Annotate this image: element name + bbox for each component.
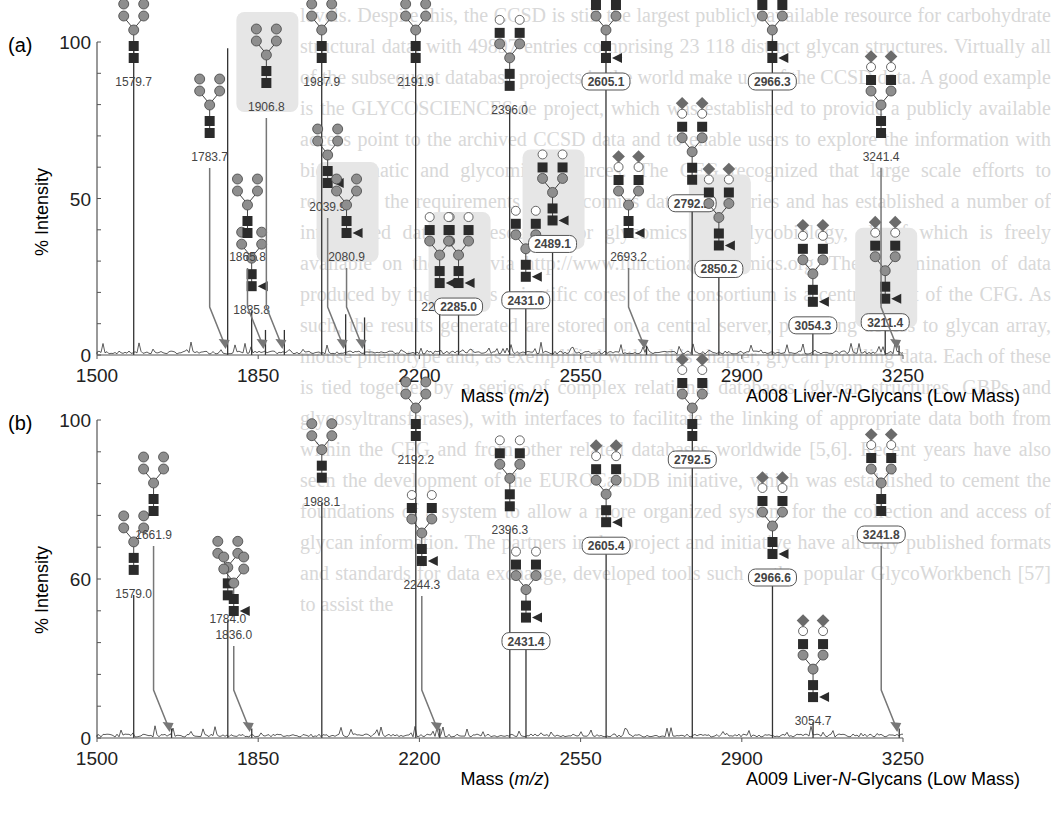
- mannose-circle-icon: [511, 571, 521, 581]
- mannose-circle-icon: [611, 11, 621, 21]
- mannose-circle-icon: [444, 236, 454, 246]
- highlight-box: [689, 174, 751, 274]
- mannose-circle-icon: [232, 174, 242, 184]
- mannose-circle-icon: [757, 507, 767, 517]
- x-tick-label: 1500: [76, 748, 118, 769]
- glcnac-square-icon: [317, 461, 327, 471]
- glcnac-square-icon: [323, 166, 333, 176]
- galactose-circle-icon: [592, 452, 601, 461]
- mannose-circle-icon: [411, 403, 421, 413]
- x-tick-label: 1500: [76, 365, 118, 386]
- galactose-circle-icon: [558, 150, 567, 159]
- glcnac-square-icon: [767, 549, 777, 559]
- glcnac-square-icon: [229, 594, 239, 604]
- x-tick-label: 2550: [559, 365, 601, 386]
- x-tick-label: 3250: [882, 748, 924, 769]
- peak: 3054.3: [789, 219, 837, 355]
- glcnac-square-icon: [229, 606, 239, 616]
- peak: 1579.0: [115, 511, 152, 738]
- mannose-circle-icon: [139, 464, 149, 474]
- mannose-circle-icon: [591, 11, 601, 21]
- galactose-circle-icon: [612, 452, 621, 461]
- peak-mass-label: 2489.1: [534, 237, 571, 251]
- glcnac-square-icon: [591, 464, 601, 474]
- mannose-circle-icon: [159, 464, 169, 474]
- glcnac-square-icon: [601, 41, 611, 51]
- mannose-circle-icon: [808, 269, 818, 279]
- fucose-triangle-icon: [778, 549, 788, 559]
- neuac-diamond-icon: [696, 97, 709, 110]
- glcnac-square-icon: [591, 0, 601, 10]
- panel-a-y-axis: 050100: [59, 32, 101, 366]
- glycan-structure-icon: [676, 97, 709, 185]
- glcnac-square-icon: [757, 496, 767, 506]
- glcnac-square-icon: [515, 28, 525, 38]
- glycan-structure-icon: [865, 428, 898, 516]
- mannose-circle-icon: [195, 86, 205, 96]
- mannose-circle-icon: [332, 174, 342, 184]
- glcnac-square-icon: [444, 225, 454, 235]
- mannose-circle-icon: [425, 236, 435, 246]
- glcnac-square-icon: [505, 489, 515, 499]
- glycan-structure-icon: [119, 511, 149, 575]
- peak: 2244.3: [403, 491, 441, 739]
- mannose-circle-icon: [777, 507, 787, 517]
- mannose-circle-icon: [870, 252, 880, 262]
- mannose-circle-icon: [307, 0, 317, 9]
- mannose-circle-icon: [239, 564, 249, 574]
- pointer-arrow: [881, 546, 897, 730]
- mannose-circle-icon: [401, 389, 411, 399]
- glcnac-square-icon: [205, 128, 215, 138]
- mannose-circle-icon: [313, 136, 323, 146]
- peak: 3054.7: [795, 614, 832, 738]
- highlight-box: [236, 12, 298, 112]
- glcnac-square-icon: [505, 81, 515, 91]
- panel-b-title: A009 Liver-N-Glycans (Low Mass): [746, 769, 1020, 789]
- panel-a-y-axis-label: % Intensity: [32, 168, 52, 256]
- peak: 2192.2: [397, 377, 434, 738]
- panel-b-y-axis: 060100: [59, 410, 101, 749]
- mannose-circle-icon: [407, 514, 417, 524]
- peak-mass-label: 2396.3: [491, 523, 528, 537]
- glcnac-square-icon: [317, 473, 327, 483]
- glycan-structure-icon: [511, 547, 542, 623]
- mannose-circle-icon: [317, 25, 327, 35]
- mannose-circle-icon: [232, 186, 242, 196]
- mannose-circle-icon: [521, 585, 531, 595]
- neuac-diamond-icon: [590, 439, 603, 452]
- fucose-triangle-icon: [612, 517, 622, 527]
- neuac-diamond-icon: [865, 50, 878, 63]
- mannose-circle-icon: [411, 25, 421, 35]
- mannose-circle-icon: [687, 403, 697, 413]
- mannose-circle-icon: [866, 86, 876, 96]
- panel-a-title: A008 Liver-N-Glycans (Low Mass): [746, 386, 1020, 406]
- galactose-circle-icon: [464, 213, 473, 222]
- peak-mass-label: 2431.4: [508, 635, 545, 649]
- glcnac-square-icon: [505, 501, 515, 511]
- mannose-circle-icon: [767, 25, 777, 35]
- galactose-circle-icon: [758, 484, 767, 493]
- mannose-circle-icon: [454, 250, 464, 260]
- glcnac-square-icon: [558, 162, 568, 172]
- glcnac-square-icon: [407, 503, 417, 513]
- peak-mass-label: 3241.8: [863, 528, 900, 542]
- mannose-circle-icon: [505, 473, 515, 483]
- peak: 2605.4: [582, 439, 630, 738]
- mannose-circle-icon: [149, 478, 159, 488]
- peak: 2693.2: [610, 150, 648, 355]
- glycan-structure-icon: [756, 471, 789, 559]
- glycan-structure-icon: [590, 439, 623, 527]
- galactose-circle-icon: [867, 63, 876, 72]
- mannose-circle-icon: [252, 174, 262, 184]
- mannose-circle-icon: [119, 0, 129, 9]
- galactose-circle-icon: [407, 491, 416, 500]
- mannose-circle-icon: [342, 200, 352, 210]
- mannose-circle-icon: [307, 431, 317, 441]
- glcnac-square-icon: [317, 53, 327, 63]
- x-tick-label: 1850: [237, 365, 279, 386]
- mannose-circle-icon: [464, 236, 474, 246]
- peak: 1988.1: [303, 419, 340, 738]
- neuac-diamond-icon: [756, 471, 769, 484]
- glycan-structure-icon: [401, 0, 431, 63]
- peak-mass-label: 2431.0: [507, 294, 544, 308]
